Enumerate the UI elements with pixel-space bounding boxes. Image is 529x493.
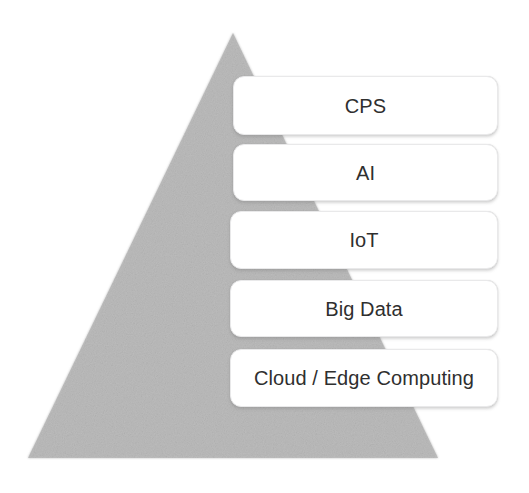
pyramid-layer-label: CPS	[345, 96, 386, 116]
pyramid-layer-label: AI	[356, 163, 375, 183]
pyramid-layer-cloud-edge-computing[interactable]: Cloud / Edge Computing	[230, 349, 498, 407]
pyramid-layer-iot[interactable]: IoT	[230, 211, 498, 269]
pyramid-layer-big-data[interactable]: Big Data	[230, 280, 498, 337]
pyramid-layer-label: IoT	[349, 230, 378, 250]
diagram-canvas: CPS AI IoT Big Data Cloud / Edge Computi…	[0, 0, 529, 493]
pyramid-layer-cps[interactable]: CPS	[233, 76, 498, 135]
pyramid-layer-label: Cloud / Edge Computing	[254, 368, 474, 388]
pyramid-layer-ai[interactable]: AI	[233, 144, 498, 201]
pyramid-layer-label: Big Data	[325, 299, 403, 319]
